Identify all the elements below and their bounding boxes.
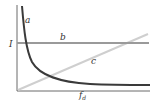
label-d: d xyxy=(82,94,86,100)
label-b: b xyxy=(60,32,66,42)
label-c: c xyxy=(91,56,96,66)
label-i: I xyxy=(8,39,13,49)
diagram-canvas: a b c I fd xyxy=(0,0,154,100)
figure: a b c I fd xyxy=(0,0,154,100)
label-a: a xyxy=(25,15,30,25)
curve-a xyxy=(22,6,150,85)
